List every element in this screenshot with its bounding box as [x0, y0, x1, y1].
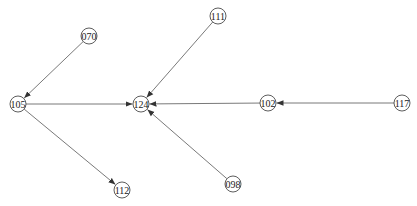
node-111[interactable]: 111 — [210, 8, 226, 24]
node-117[interactable]: 117 — [394, 95, 410, 111]
node-label: 102 — [261, 98, 276, 109]
node-label: 070 — [82, 31, 97, 42]
edges-layer — [24, 22, 394, 185]
graph-canvas: 070105124111102117098112 — [0, 0, 417, 206]
node-102[interactable]: 102 — [260, 95, 276, 111]
node-105[interactable]: 105 — [10, 96, 26, 112]
edge-105-to-112 — [24, 109, 115, 184]
node-label: 098 — [226, 179, 241, 190]
node-098[interactable]: 098 — [225, 176, 241, 192]
edge-102-to-124 — [150, 103, 261, 104]
node-label: 105 — [11, 99, 26, 110]
edge-070-to-105 — [24, 42, 83, 99]
node-070[interactable]: 070 — [81, 28, 97, 44]
node-label: 111 — [211, 11, 225, 22]
edge-111-to-124 — [147, 22, 213, 98]
node-label: 112 — [115, 185, 130, 196]
node-124[interactable]: 124 — [133, 96, 149, 112]
edge-098-to-124 — [147, 110, 227, 179]
node-label: 124 — [134, 99, 149, 110]
node-label: 117 — [395, 98, 410, 109]
node-112[interactable]: 112 — [114, 182, 130, 198]
